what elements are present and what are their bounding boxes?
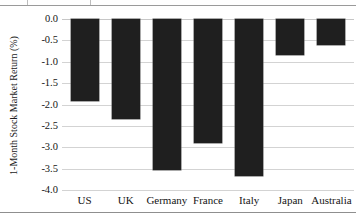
x-axis-tick-label: Germany <box>146 193 187 207</box>
y-axis-tick-label: -1.5 <box>18 78 58 89</box>
x-axis-tick-label: Japan <box>270 193 311 207</box>
y-axis-tick-label: -3.0 <box>18 142 58 153</box>
cropped-table-tick <box>27 0 28 5</box>
figure-bottom-rule <box>0 212 356 213</box>
y-axis-tick-label: 0.0 <box>18 14 58 25</box>
y-axis-tick-label: -0.5 <box>18 35 58 46</box>
x-axis-tick-label: Australia <box>311 193 352 207</box>
bar-series <box>64 19 352 190</box>
bar <box>153 19 181 170</box>
y-axis-tick-label: -2.5 <box>18 121 58 132</box>
plot-area <box>64 19 352 190</box>
y-axis-tick-label: -3.5 <box>18 164 58 175</box>
bar <box>71 19 99 101</box>
y-axis-tick-label: -4.0 <box>18 185 58 196</box>
cropped-table-rule-top <box>0 5 356 6</box>
bar <box>317 19 345 45</box>
x-axis-tick-label: US <box>64 193 105 207</box>
y-axis-tick-label: -2.0 <box>18 100 58 111</box>
x-axis-tick-labels: USUKGermanyFranceItalyJapanAustralia <box>64 193 352 209</box>
chart-figure: 1-Month Stock Market Return (%) 0.0-0.5-… <box>0 0 356 221</box>
bar <box>112 19 140 119</box>
bar <box>194 19 222 143</box>
x-axis-tick-label: Italy <box>229 193 270 207</box>
bar <box>235 19 263 176</box>
bar <box>276 19 304 55</box>
cropped-table-tick <box>90 0 91 5</box>
gridline <box>62 190 354 191</box>
x-axis-tick-label: UK <box>105 193 146 207</box>
y-axis-tick-label: -1.0 <box>18 57 58 68</box>
y-axis-title: 1-Month Stock Market Return (%) <box>8 16 19 196</box>
x-axis-tick-label: France <box>187 193 228 207</box>
